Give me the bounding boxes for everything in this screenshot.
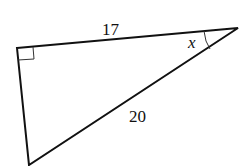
- side-label-top: 17: [102, 20, 120, 39]
- right-angle-marker: [18, 47, 34, 60]
- triangle-svg: 17 x 20: [0, 0, 239, 166]
- triangle-diagram: 17 x 20: [0, 0, 239, 166]
- angle-label-x: x: [187, 33, 196, 52]
- triangle-outline: [17, 28, 238, 165]
- side-label-hypotenuse: 20: [129, 107, 146, 126]
